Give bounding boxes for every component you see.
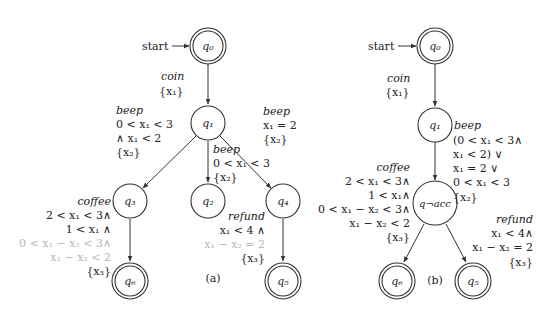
state-q6-label: q₆ xyxy=(124,275,136,288)
state-q1-label: q₁ xyxy=(429,119,440,132)
action-label: beep xyxy=(116,104,143,117)
start-label: start xyxy=(368,40,395,53)
state-q5: q₅ xyxy=(265,263,301,299)
label-q1-qnacc: beep (0 < x₁ < 3∧ x₁ < 2) ∨ x₁ = 2 ∨ 0 <… xyxy=(453,119,522,204)
reset-label: {x₃} xyxy=(385,231,410,244)
guard-label: 1 < x₁ ∧ xyxy=(66,223,111,236)
guard-label: 1 < x₁∧ xyxy=(368,189,410,202)
label-qnacc-q5: refund x₁ < 4∧ x₁ − x₂ = 2 {x₃} xyxy=(472,213,533,269)
state-q0-label: q₀ xyxy=(202,40,214,53)
action-label: beep xyxy=(213,143,240,156)
guard-label: 0 < x₁ − x₂ < 3∧ xyxy=(19,237,111,250)
state-q0: q₀ xyxy=(190,28,226,64)
state-q0-label: q₀ xyxy=(429,40,441,53)
guard-label: 0 < x₁ < 3 xyxy=(213,157,270,170)
state-q0: q₀ xyxy=(417,28,453,64)
guard-label: x₁ − x₂ < 2 xyxy=(50,251,111,264)
reset-label: {x₁} xyxy=(159,85,184,98)
guard-label: x₁ < 4∧ xyxy=(491,227,533,240)
panel-a: start q₀ q₁ q₃ q₂ q₄ xyxy=(19,28,301,299)
caption-a: (a) xyxy=(205,272,220,285)
label-q1-q3: beep 0 < x₁ < 3 ∧ x₁ < 2 {x₂} xyxy=(116,104,173,159)
state-q2: q₂ xyxy=(191,184,225,218)
label-q4-q5: refund x₁ < 4 ∧ x₁ − x₂ = 2 {x₃} xyxy=(204,210,265,265)
state-q3: q₃ xyxy=(113,184,147,218)
state-q4: q₄ xyxy=(266,184,300,218)
label-q3-q6: coffee 2 < x₁ < 3∧ 1 < x₁ ∧ 0 < x₁ − x₂ … xyxy=(19,195,111,278)
state-q1: q₁ xyxy=(191,106,225,140)
reset-label: {x₃} xyxy=(86,265,111,278)
guard-label: x₁ − x₂ = 2 xyxy=(472,241,533,254)
reset-label: {x₂} xyxy=(213,171,238,184)
state-q3-label: q₃ xyxy=(124,195,135,208)
action-label: refund xyxy=(496,213,533,226)
guard-label: 2 < x₁ < 3∧ xyxy=(345,175,410,188)
guard-label: ∧ x₁ < 2 xyxy=(116,132,161,145)
action-label: coin xyxy=(161,70,184,83)
state-q5-label: q₅ xyxy=(277,275,289,288)
state-qnacc: q¬acc xyxy=(413,181,457,225)
reset-label: {x₃} xyxy=(240,252,265,265)
state-q6-label: q₆ xyxy=(391,275,403,288)
label-q1-q4: beep x₁ = 2 {x₂} xyxy=(263,105,297,146)
state-q5-label: q₅ xyxy=(467,275,479,288)
guard-label: x₁ − x₂ < 2 xyxy=(349,217,410,230)
label-q0-q1: coin {x₁} xyxy=(385,72,410,99)
action-label: coffee xyxy=(77,195,111,208)
guard-label: 2 < x₁ < 3∧ xyxy=(46,209,111,222)
reset-label: {x₂} xyxy=(263,133,288,146)
reset-label: {x₃} xyxy=(508,256,533,269)
state-qnacc-label: q¬acc xyxy=(419,198,451,209)
state-q4-label: q₄ xyxy=(277,195,288,208)
reset-label: {x₁} xyxy=(385,86,410,99)
label-qnacc-q6: coffee 2 < x₁ < 3∧ 1 < x₁∧ 0 < x₁ − x₂ <… xyxy=(318,161,410,244)
action-label: coffee xyxy=(376,161,410,174)
reset-label: {x₂} xyxy=(116,146,141,159)
timed-automata-diagram: start q₀ q₁ q₃ q₂ q₄ xyxy=(0,0,555,313)
guard-label: 0 < x₁ < 3 xyxy=(116,118,173,131)
guard-label: x₁ < 4 ∧ xyxy=(220,224,265,237)
state-q6: q₆ xyxy=(379,263,415,299)
state-q1: q₁ xyxy=(418,108,452,142)
action-label: beep xyxy=(454,119,481,132)
guard-label: (0 < x₁ < 3∧ xyxy=(453,134,522,147)
action-label: beep xyxy=(263,105,290,118)
reset-label: {x₂} xyxy=(453,191,478,204)
guard-label: 0 < x₁ − x₂ < 3∧ xyxy=(318,203,410,216)
state-q5: q₅ xyxy=(455,263,491,299)
label-q0-q1: coin {x₁} xyxy=(159,70,184,98)
panel-b: start q₀ q₁ q¬acc q₆ q₅ c xyxy=(318,28,533,299)
guard-label: x₁ = 2 ∨ xyxy=(453,162,498,175)
edge-qnacc-q5 xyxy=(446,224,466,262)
caption-b: (b) xyxy=(427,274,443,287)
guard-label: x₁ − x₂ = 2 xyxy=(204,238,265,251)
state-q2-label: q₂ xyxy=(202,195,213,208)
guard-label: x₁ = 2 xyxy=(263,119,297,132)
state-q6: q₆ xyxy=(112,263,148,299)
guard-label: x₁ < 2) ∨ xyxy=(453,148,503,161)
start-label: start xyxy=(142,40,169,53)
action-label: refund xyxy=(228,210,265,223)
guard-label: 0 < x₁ < 3 xyxy=(453,176,510,189)
action-label: coin xyxy=(387,72,410,85)
state-q1-label: q₁ xyxy=(202,117,213,130)
